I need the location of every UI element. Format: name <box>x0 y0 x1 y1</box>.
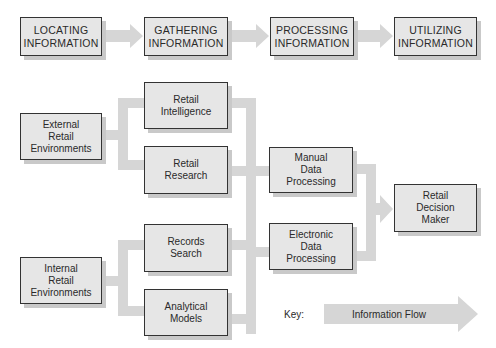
node-retail-decision-maker: Retail Decision Maker <box>394 184 477 232</box>
flow-to-intelligence <box>118 98 144 108</box>
stage-label-line2: INFORMATION <box>275 37 350 50</box>
flow-arrow-gathering-processing <box>232 24 269 48</box>
stage-label-line2: INFORMATION <box>149 37 224 50</box>
flow-to-manual <box>246 166 269 176</box>
node-label-line: External <box>43 119 80 131</box>
stage-processing-information: PROCESSING INFORMATION <box>270 17 354 56</box>
node-retail-research: Retail Research <box>144 146 228 194</box>
stage-label-line1: PROCESSING <box>276 24 348 37</box>
flow-internal-vertical <box>118 240 128 314</box>
key-information-flow-label: Information Flow <box>352 309 426 320</box>
node-label-line: Records <box>167 236 204 248</box>
retail-information-flow-diagram: LOCATING INFORMATION GATHERING INFORMATI… <box>0 0 496 348</box>
node-label-line: Retail <box>423 190 449 202</box>
node-label-line: Retail <box>48 131 74 143</box>
node-label-line: Electronic <box>289 229 333 241</box>
node-label-line: Data <box>300 241 321 253</box>
node-external-retail-environments: External Retail Environments <box>20 113 102 160</box>
flow-arrow-processing-utilizing <box>358 24 393 48</box>
node-label-line: Environments <box>30 287 91 299</box>
node-label-line: Processing <box>286 176 335 188</box>
node-label-line: Retail <box>173 158 199 170</box>
node-label-line: Maker <box>422 214 450 226</box>
node-retail-intelligence: Retail Intelligence <box>144 82 228 129</box>
flow-intelligence-out <box>228 98 256 108</box>
node-records-search: Records Search <box>144 224 228 272</box>
node-label-line: Research <box>165 170 208 182</box>
flow-external-vertical <box>118 98 128 170</box>
node-electronic-data-processing: Electronic Data Processing <box>269 223 353 270</box>
stage-locating-information: LOCATING INFORMATION <box>20 17 102 56</box>
node-label-line: Manual <box>295 152 328 164</box>
flow-collector-vertical <box>246 98 256 334</box>
stage-label-line2: INFORMATION <box>24 37 99 50</box>
stage-label-line1: GATHERING <box>154 24 217 37</box>
flow-to-research <box>118 160 144 170</box>
flow-to-models <box>118 306 144 316</box>
node-label-line: Data <box>300 164 321 176</box>
key-label: Key: <box>284 309 304 320</box>
node-label-line: Internal <box>44 263 77 275</box>
node-analytical-models: Analytical Models <box>144 289 228 336</box>
stage-utilizing-information: UTILIZING INFORMATION <box>394 17 477 56</box>
node-label-line: Intelligence <box>161 106 212 118</box>
stage-gathering-information: GATHERING INFORMATION <box>144 17 228 56</box>
node-label-line: Retail <box>173 94 199 106</box>
node-label-line: Models <box>170 313 202 325</box>
stage-label-line1: UTILIZING <box>409 24 462 37</box>
node-manual-data-processing: Manual Data Processing <box>269 147 353 193</box>
node-label-line: Analytical <box>165 301 208 313</box>
stage-label-line1: LOCATING <box>34 24 89 37</box>
flow-to-electronic <box>246 247 269 257</box>
stage-label-line2: INFORMATION <box>398 37 473 50</box>
node-label-line: Retail <box>48 275 74 287</box>
node-label-line: Decision <box>416 202 454 214</box>
node-label-line: Search <box>170 248 202 260</box>
flow-models-out <box>228 314 256 324</box>
node-label-line: Processing <box>286 253 335 265</box>
node-label-line: Environments <box>30 143 91 155</box>
node-internal-retail-environments: Internal Retail Environments <box>20 257 102 304</box>
flow-to-records <box>118 240 144 250</box>
flow-arrow-locating-gathering <box>106 24 143 48</box>
